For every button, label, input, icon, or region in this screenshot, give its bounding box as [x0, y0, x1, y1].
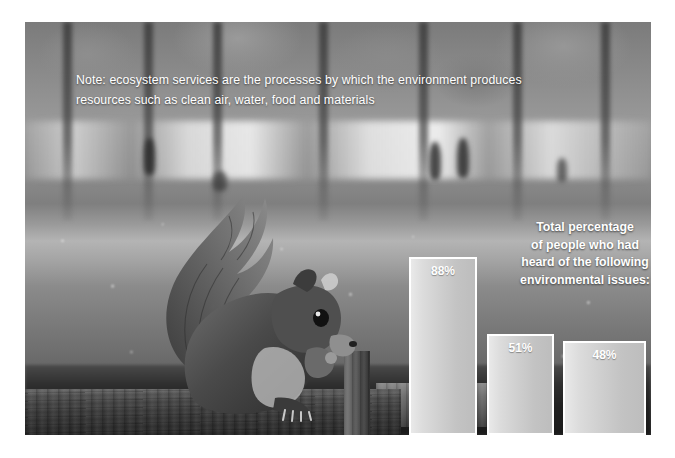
- background-photograph: 88% Climate change 51% Ecosystem service…: [25, 22, 651, 435]
- note-text: Note: ecosystem services are the process…: [76, 70, 566, 110]
- poster-page: 88% Climate change 51% Ecosystem service…: [0, 0, 675, 458]
- bar-biodiversity[interactable]: 48%: [563, 341, 646, 435]
- chart-title-legend: Total percentage of people who had heard…: [491, 219, 651, 289]
- bar-value-ecosystem-services: 51%: [489, 341, 552, 355]
- bar-climate-change[interactable]: 88%: [409, 257, 477, 435]
- bar-ecosystem-services[interactable]: 51%: [487, 334, 554, 435]
- bar-value-biodiversity: 48%: [565, 348, 644, 362]
- bar-group-climate-change: 88% Climate change: [409, 65, 477, 435]
- bar-value-climate-change: 88%: [411, 264, 475, 278]
